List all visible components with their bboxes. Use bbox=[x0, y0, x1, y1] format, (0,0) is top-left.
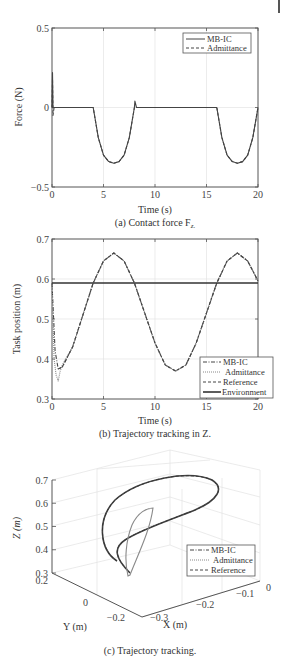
legend-a: MB-IC Admittance bbox=[183, 33, 251, 53]
ylabel-c: Y (m) bbox=[63, 621, 87, 633]
x-tick-label: −0.2 bbox=[196, 599, 214, 610]
x-tick-label: 5 bbox=[101, 189, 106, 200]
x-tick-label: 10 bbox=[150, 401, 160, 412]
legend-a-item-1: Admittance bbox=[207, 43, 247, 53]
y-tick-label: 0.3 bbox=[37, 394, 50, 405]
z-tick-label: 0.6 bbox=[36, 498, 49, 509]
x-tick-label: 0 bbox=[50, 401, 55, 412]
x-tick-label: 0 bbox=[50, 189, 55, 200]
y-tick-label: 0.7 bbox=[37, 234, 50, 245]
x-tick-label: 20 bbox=[253, 401, 263, 412]
x-tick-label: 15 bbox=[202, 401, 212, 412]
plot-trajectory-z: 051015200.30.40.50.60.7 Time (s) Task po… bbox=[11, 234, 273, 441]
legend-b-item-2: Reference bbox=[223, 377, 258, 387]
caption-b: (b) Trajectory tracking in Z. bbox=[99, 428, 211, 440]
xlabel-c: X (m) bbox=[163, 619, 187, 631]
legend-b: MB-IC Admittance Reference Environment bbox=[200, 357, 273, 398]
y-tick-label: 0 bbox=[44, 102, 49, 113]
y-tick-label: 0.2 bbox=[36, 575, 49, 586]
z-tick-label: 0.7 bbox=[36, 475, 49, 486]
page-edge-mark bbox=[278, 0, 280, 13]
x-tick-label: −0.1 bbox=[236, 588, 254, 599]
zlabel-c: Z (m) bbox=[11, 516, 23, 539]
legend-c-item-0: MB-IC bbox=[211, 545, 236, 555]
z-tick-label: 0.5 bbox=[36, 521, 49, 532]
legend-c: MB-IC Admittance Reference bbox=[187, 545, 255, 576]
grid-c bbox=[52, 450, 260, 617]
x-tick-label: 10 bbox=[150, 189, 160, 200]
x-tick-label: 5 bbox=[101, 401, 106, 412]
y-tick-label: 0.4 bbox=[37, 354, 50, 365]
y-tick-label: 0.5 bbox=[37, 314, 50, 325]
legend-b-item-1: Admittance bbox=[225, 367, 265, 377]
figure: 05101520−0.500.5 Time (s) Force (N) (a) … bbox=[0, 0, 285, 662]
plot-trajectory-3d: 0.30.40.50.60.70.20−0.2−0.3−0.2−0.10 Z (… bbox=[11, 450, 271, 657]
x-tick-label: 0 bbox=[266, 582, 271, 593]
y-tick-label: −0.2 bbox=[107, 612, 125, 623]
x-tick-label: 20 bbox=[253, 189, 263, 200]
caption-c: (c) Trajectory tracking. bbox=[104, 645, 196, 657]
xlabel-a: Time (s) bbox=[138, 204, 172, 216]
y-tick-label: 0 bbox=[83, 597, 88, 608]
x-tick-label: 15 bbox=[202, 189, 212, 200]
ylabel-b: Task position (m) bbox=[11, 284, 23, 354]
plot-contact-force: 05101520−0.500.5 Time (s) Force (N) (a) … bbox=[13, 23, 263, 231]
z-tick-label: 0.4 bbox=[36, 544, 49, 555]
legend-c-item-2: Reference bbox=[211, 565, 246, 575]
y-tick-label: 0.5 bbox=[37, 23, 50, 34]
series-reference bbox=[58, 253, 258, 371]
legend-c-item-1: Admittance bbox=[213, 555, 253, 565]
legend-b-item-0: MB-IC bbox=[223, 357, 248, 367]
xlabel-b: Time (s) bbox=[138, 415, 172, 427]
y-tick-label: −0.5 bbox=[31, 182, 49, 193]
caption-a: (a) Contact force Fz. bbox=[115, 217, 196, 230]
legend-b-item-3: Environment bbox=[222, 387, 267, 397]
series-c-admittance bbox=[126, 508, 153, 576]
ylabel-a: Force (N) bbox=[13, 87, 25, 126]
y-tick-label: 0.6 bbox=[37, 274, 50, 285]
